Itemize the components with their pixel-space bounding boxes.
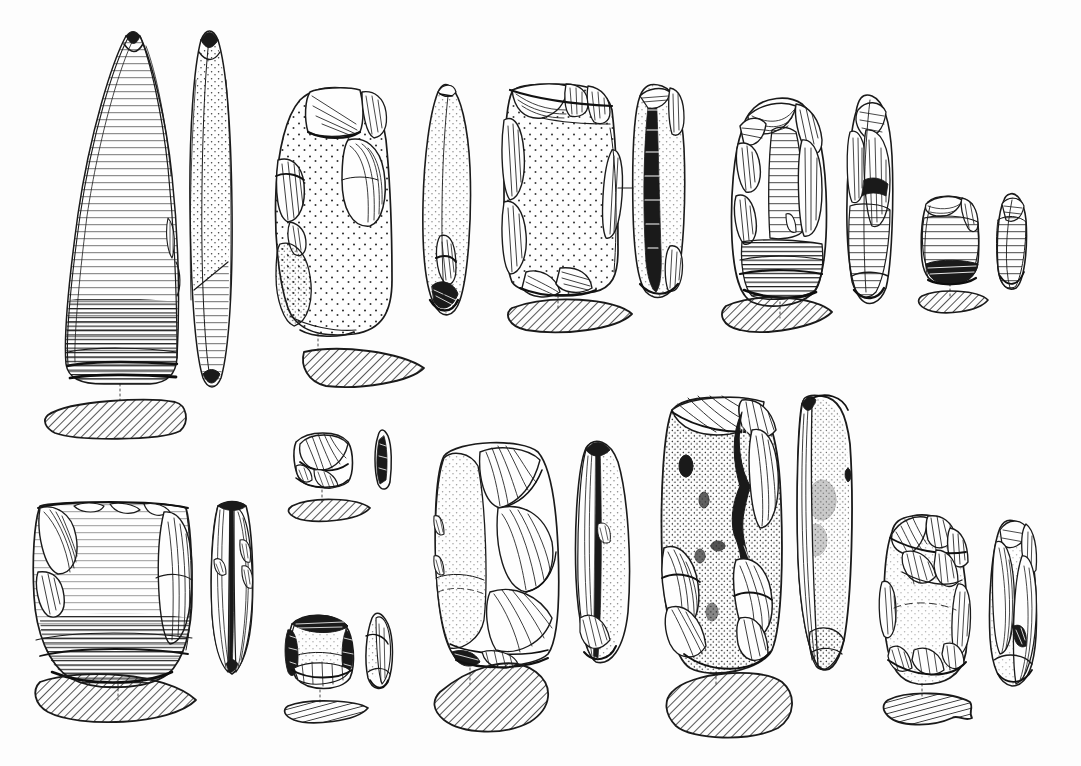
artifact-b5-profile-view bbox=[797, 395, 852, 670]
artifact-b4-profile-view bbox=[575, 441, 629, 662]
artifact-a4-face-view bbox=[731, 98, 826, 306]
artifact-b5-face-view bbox=[661, 396, 782, 673]
artifact-b3-face-view bbox=[285, 615, 353, 688]
artifact-b6-face-view bbox=[879, 515, 970, 684]
artifact-b6-profile-view bbox=[989, 520, 1036, 686]
artifact-a2-face-view bbox=[276, 88, 393, 337]
artifact-a2-profile-view bbox=[423, 85, 471, 315]
artifact-b1-profile-view bbox=[211, 502, 253, 675]
artifact-a3-face-view bbox=[502, 84, 623, 297]
artifact-b3-profile-view bbox=[366, 613, 393, 688]
artifact-a4-profile-view bbox=[847, 95, 893, 303]
artifact-b1-face-view bbox=[33, 502, 192, 688]
plate-drawing bbox=[0, 0, 1081, 766]
artifact-a5-face-view bbox=[921, 196, 979, 284]
artifact-b2-face-view bbox=[294, 433, 353, 488]
artifact-a1-profile-view bbox=[190, 31, 232, 387]
artifact-a5-profile-view bbox=[997, 194, 1027, 289]
artifact-b2-profile-view bbox=[375, 430, 391, 489]
artifact-b4-face-view bbox=[434, 443, 559, 668]
artifact-plate: Lithic artefact plate ground and polishe… bbox=[0, 0, 1081, 766]
